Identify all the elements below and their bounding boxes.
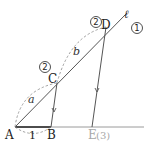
geometry-diagram: A B C D E (3) ℓ a b 1 2 2 1 [0,0,153,142]
segment-1-label: 1 [29,129,36,142]
circled-2-c-label: 2 [42,62,47,72]
point-c-label: C [48,72,57,86]
circled-1-label: 1 [134,23,139,33]
segment-b-label: b [73,45,80,58]
point-a-label: A [4,128,14,142]
segment-a-label: a [28,93,35,106]
arc-b [57,27,106,83]
line-l-label: ℓ [124,8,129,21]
point-b-label: B [47,128,56,142]
circled-2-d-label: 2 [93,17,98,27]
point-e-ratio: (3) [96,130,110,141]
point-d-label: D [101,18,111,32]
